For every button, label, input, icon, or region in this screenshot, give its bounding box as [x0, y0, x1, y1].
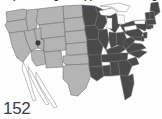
- state-FL[interactable]: [120, 74, 134, 100]
- state-OK[interactable]: [63, 54, 89, 65]
- map-states-absent: [5, 5, 91, 96]
- lake-michigan: [107, 18, 112, 29]
- state-CT[interactable]: [147, 25, 151, 29]
- isolated-occurrence-marker[interactable]: [36, 41, 41, 46]
- state-VT[interactable]: [145, 12, 150, 20]
- gulf-coast-outline: [36, 72, 57, 108]
- state-MT[interactable]: [36, 6, 64, 25]
- state-AR[interactable]: [88, 55, 102, 67]
- state-NE[interactable]: [65, 30, 87, 44]
- state-KS[interactable]: [66, 42, 88, 55]
- figure-number-label: 152: [3, 100, 30, 117]
- state-ND[interactable]: [63, 5, 83, 19]
- state-CO[interactable]: [41, 36, 66, 52]
- state-NM[interactable]: [44, 51, 63, 68]
- state-RI[interactable]: [151, 25, 153, 28]
- state-NJ[interactable]: [143, 32, 147, 38]
- state-LA[interactable]: [89, 66, 104, 81]
- lake-huron: [117, 15, 125, 24]
- figure-container: Map showing the approximate range: [0, 0, 162, 119]
- state-AZ[interactable]: [31, 50, 46, 66]
- state-TX[interactable]: [63, 64, 91, 96]
- map-markers: [36, 41, 41, 46]
- state-IN[interactable]: [109, 32, 117, 48]
- state-SD[interactable]: [64, 17, 85, 32]
